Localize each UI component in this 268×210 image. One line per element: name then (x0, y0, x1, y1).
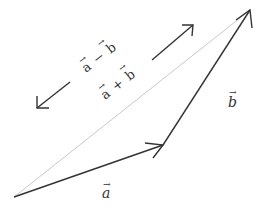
diagram-svg: a − b → → a + b → → b → a → (0, 0, 268, 210)
vector-a-plus-b-line (14, 10, 250, 197)
label-a: a → (102, 179, 111, 201)
label-a-minus-b: a − b → → (74, 33, 119, 75)
diff-direction-arrow-icon (37, 82, 70, 108)
label-b: b → (228, 87, 237, 110)
svg-text:→: → (229, 87, 237, 97)
label-a-plus-b: a + b → → (93, 60, 138, 102)
vector-diagram: a − b → → a + b → → b → a → (0, 0, 268, 210)
vector-b (163, 10, 252, 145)
vector-a (14, 143, 163, 197)
svg-text:→: → (103, 179, 111, 189)
sum-direction-arrow-icon (152, 25, 193, 60)
